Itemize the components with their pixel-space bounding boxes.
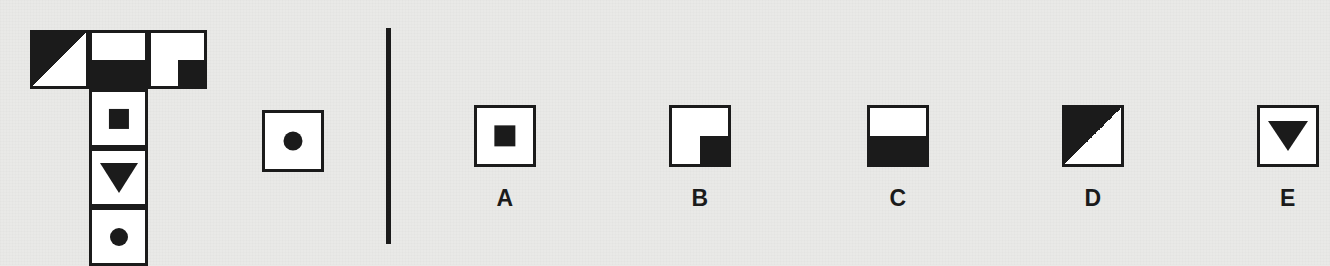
triangle-lower-left-shape — [33, 33, 86, 86]
triangle-down-shape — [100, 163, 138, 193]
square-shape — [494, 125, 515, 146]
bottom-half-shape — [870, 136, 926, 164]
circle-shape — [109, 227, 127, 245]
option-e[interactable]: E — [1245, 105, 1330, 210]
option-d-label: D — [1050, 187, 1136, 210]
option-b-box[interactable] — [669, 105, 731, 167]
option-c-label: C — [855, 187, 941, 210]
triangle-lower-left-shape — [1065, 108, 1121, 164]
quadrant-bottom-right-shape — [178, 60, 205, 87]
option-a-box[interactable] — [474, 105, 536, 167]
matrix-cell-r3c2[interactable] — [89, 148, 148, 207]
triangle-down-shape — [1268, 121, 1308, 151]
matrix-cell-r1c1[interactable] — [30, 30, 89, 89]
matrix-cell-r2c2[interactable] — [89, 89, 148, 148]
matrix-cell-r4c2[interactable] — [89, 207, 148, 266]
option-a-label: A — [462, 187, 548, 210]
matrix-cell-r1c3[interactable] — [148, 30, 207, 89]
vertical-divider — [386, 28, 391, 244]
square-shape — [108, 108, 128, 128]
option-e-label: E — [1245, 187, 1330, 210]
quadrant-bottom-right-shape — [700, 136, 728, 164]
option-d-box[interactable] — [1062, 105, 1124, 167]
option-d[interactable]: D — [1050, 105, 1136, 210]
stimulus-box[interactable] — [262, 110, 324, 172]
circle-shape — [283, 131, 302, 150]
option-c[interactable]: C — [855, 105, 941, 210]
option-a[interactable]: A — [462, 105, 548, 210]
matrix-cell-r1c2[interactable] — [89, 30, 148, 89]
option-b-label: B — [657, 187, 743, 210]
option-b[interactable]: B — [657, 105, 743, 210]
option-e-box[interactable] — [1257, 105, 1319, 167]
bottom-half-shape — [92, 60, 145, 87]
option-c-box[interactable] — [867, 105, 929, 167]
